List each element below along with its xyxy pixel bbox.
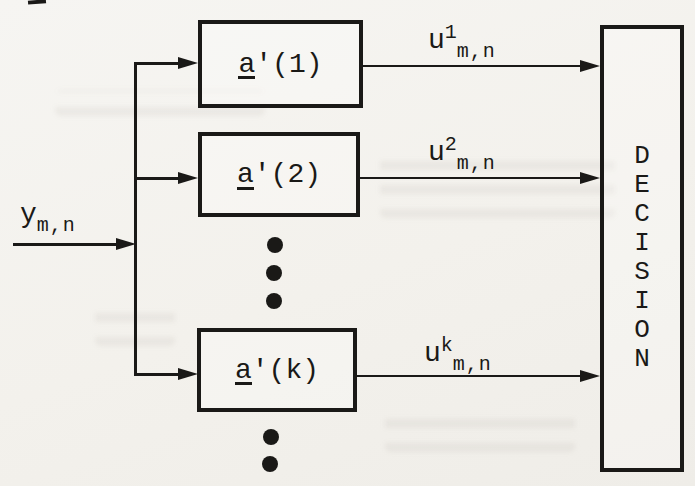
branch-arrowhead-2 (178, 172, 198, 184)
filter-box-1-label: a'(1) (238, 49, 322, 80)
output-line-1 (363, 65, 582, 67)
decision-letter-s: S (634, 258, 650, 287)
output-label-2-superscript: 2 (445, 133, 457, 156)
filter-box-3-label-underlined: a (235, 360, 252, 386)
output-label-1-superscript: 1 (445, 21, 457, 44)
filter-box-1-label-underlined: a (238, 54, 255, 80)
filter-box-2: a'(2) (198, 132, 360, 217)
ellipsis-dot (266, 265, 282, 281)
output-label-3-superscript: k (441, 334, 453, 357)
filter-box-2-label-rest: '(2) (254, 159, 321, 190)
scan-bleed-artifact (385, 412, 575, 452)
filter-box-1-label-rest: '(1) (255, 49, 322, 80)
output-label-2-subscript: m,n (457, 152, 496, 175)
ellipsis-dot (263, 429, 279, 445)
output-label-1: u1m,n (428, 27, 496, 55)
output-label-2: u2m,n (428, 139, 496, 167)
branch-line-2 (137, 177, 179, 180)
decision-letter-d: D (634, 142, 650, 171)
input-signal-base: y (20, 199, 37, 230)
output-label-1-base: u (428, 25, 445, 56)
decision-letter-n: N (634, 345, 650, 374)
output-label-3-base: u (424, 338, 441, 369)
branch-line-3 (137, 373, 179, 376)
input-arrow-line (13, 243, 117, 246)
decision-box: D E C I S I O N (600, 25, 684, 472)
filter-box-3: a'(k) (197, 328, 357, 412)
decision-letter-c: C (634, 200, 650, 229)
filter-box-3-label-rest: '(k) (252, 355, 319, 386)
filter-box-3-label: a'(k) (235, 355, 319, 386)
filter-box-2-label-underlined: a (237, 164, 254, 190)
branch-trunk-line (134, 62, 137, 376)
scanned-figure: ym,n a'(1) a'(2) a'(k) u1m,n u2m,n ukm,n… (0, 0, 695, 486)
output-arrowhead-1 (580, 60, 600, 72)
output-label-2-base: u (428, 137, 445, 168)
output-label-3-subscript: m,n (453, 353, 492, 376)
filter-box-2-label: a'(2) (237, 159, 321, 190)
branch-arrowhead-3 (178, 368, 198, 380)
input-signal-label: ym,n (20, 201, 76, 229)
ellipsis-dot (262, 456, 278, 472)
decision-letter-i2: I (634, 287, 650, 316)
scan-artifact (28, 0, 46, 5)
ellipsis-dot (267, 237, 283, 253)
filter-box-1: a'(1) (198, 20, 363, 108)
branch-line-1 (137, 62, 179, 65)
branch-arrowhead-1 (178, 57, 198, 69)
output-arrowhead-3 (580, 370, 600, 382)
decision-letter-o: O (634, 316, 650, 345)
decision-letter-i1: I (634, 229, 650, 258)
output-label-3: ukm,n (424, 340, 492, 368)
decision-box-label: D E C I S I O N (604, 142, 680, 374)
decision-letter-e: E (634, 171, 650, 200)
input-arrowhead (116, 238, 136, 250)
output-line-2 (360, 177, 582, 179)
output-arrowhead-2 (580, 172, 600, 184)
output-label-1-subscript: m,n (457, 40, 496, 63)
ellipsis-dot (266, 293, 282, 309)
input-signal-subscript: m,n (37, 214, 76, 237)
